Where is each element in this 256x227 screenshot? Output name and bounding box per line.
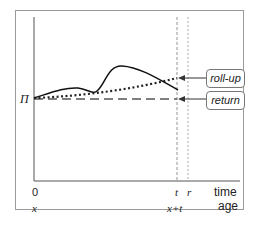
age-origin-label: x xyxy=(32,202,37,214)
x-plus-t-label: x+t xyxy=(167,202,182,214)
return-label: return xyxy=(206,91,245,110)
time-axis-label: time xyxy=(214,185,237,199)
roll-up-label: roll-up xyxy=(206,69,245,88)
roll-up-curve xyxy=(34,78,177,98)
t-label: t xyxy=(175,186,178,198)
age-axis-label: age xyxy=(218,199,238,213)
pi-label: Π xyxy=(20,92,29,107)
r-label: r xyxy=(187,186,191,198)
time-origin-label: 0 xyxy=(32,186,38,198)
fund-value-curve xyxy=(34,66,178,98)
